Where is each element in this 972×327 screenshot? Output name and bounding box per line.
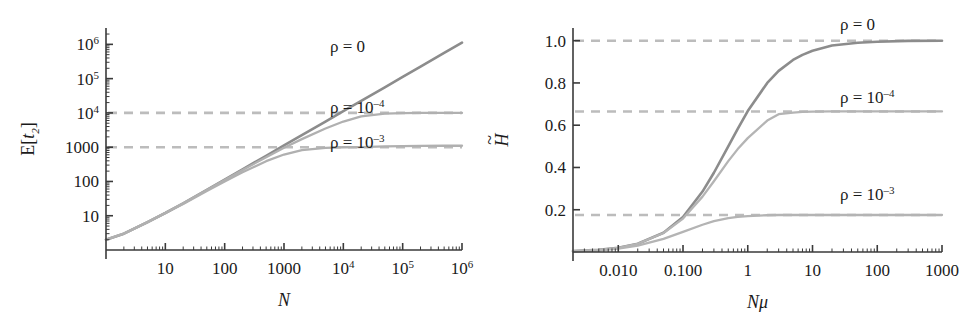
x-axis-title: Nμ [746, 292, 768, 312]
x-tick-label: 0.010 [599, 261, 637, 280]
x-axis-title: N [277, 290, 291, 310]
y-title-close: ] [18, 122, 38, 128]
x-tick-label: 10 [804, 261, 821, 280]
curve-series-0 [573, 41, 942, 251]
curve-series-2 [106, 146, 462, 240]
y-tick-label: 100 [74, 172, 100, 191]
annot-base: ρ = 10 [840, 185, 884, 204]
y-tick-base: 10 [82, 207, 99, 226]
curve-series-0 [106, 43, 462, 240]
x-tick-label: 105 [391, 258, 414, 278]
x-tick-base: 10 [391, 259, 408, 278]
y-tick-base: 1000 [65, 138, 99, 157]
annot-base: ρ = 10 [840, 88, 884, 107]
x-tick-sup: 6 [468, 258, 474, 270]
y-tick-label: 0.4 [545, 158, 567, 177]
y-tick-base: 10 [77, 104, 94, 123]
y-title-base: E[ [18, 139, 38, 156]
x-tick-base: 100 [212, 259, 238, 278]
x-tick-label: 10 [157, 259, 174, 278]
x-tick-label: 1000 [925, 261, 959, 280]
y-axis-title: E[t2] [18, 122, 41, 156]
y-tick-label: 0.8 [545, 74, 566, 93]
y-tick-label: 104 [77, 103, 100, 123]
y-tick-label: 1.0 [545, 32, 566, 51]
y-tick-label: 0.6 [545, 116, 566, 135]
chart-right-svg: 0.0100.10011010010000.20.40.60.81.0Nμ~Hρ… [486, 0, 972, 327]
x-tick-label: 104 [332, 258, 355, 278]
y-tick-sup: 4 [94, 103, 100, 115]
x-tick-label: 0.100 [664, 261, 702, 280]
chart-panel-left: 101001000104105106101001000104105106NE[t… [0, 0, 486, 327]
curve-series-1 [573, 111, 942, 251]
annot-rho-1e-3: ρ = 10–3 [840, 184, 895, 204]
figure-container: 101001000104105106101001000104105106NE[t… [0, 0, 972, 327]
annot-base: ρ = 10 [330, 98, 374, 117]
x-tick-label: 106 [451, 258, 474, 278]
chart-panel-right: 0.0100.10011010010000.20.40.60.81.0Nμ~Hρ… [486, 0, 972, 327]
chart-left-svg: 101001000104105106101001000104105106NE[t… [0, 0, 486, 327]
annot-sup: –4 [883, 87, 896, 99]
y-axis-title: H [492, 133, 512, 148]
x-tick-label: 1 [744, 261, 753, 280]
y-tick-label: 106 [77, 34, 100, 54]
x-tick-label: 100 [212, 259, 238, 278]
y-tick-base: 10 [77, 35, 94, 54]
x-tick-base: 10 [451, 259, 468, 278]
annot-rho-0: ρ = 0 [840, 15, 875, 34]
y-tick-label: 105 [77, 69, 100, 89]
y-tick-base: 10 [77, 70, 94, 89]
annot-base: ρ = 10 [330, 133, 374, 152]
annot-sup: –3 [883, 184, 896, 196]
x-tick-label: 100 [865, 261, 891, 280]
x-tick-base: 10 [332, 259, 349, 278]
x-tick-base: 1000 [267, 259, 301, 278]
annot-base: ρ = 0 [840, 15, 875, 34]
curve-series-1 [106, 113, 462, 240]
y-tick-sup: 5 [94, 69, 100, 81]
x-tick-sup: 5 [408, 258, 414, 270]
y-tick-label: 0.2 [545, 201, 566, 220]
y-tick-sup: 6 [94, 34, 100, 46]
annot-rho-1e-3: ρ = 10–3 [330, 132, 385, 152]
x-tick-sup: 4 [349, 258, 355, 270]
annot-rho-0: ρ = 0 [330, 37, 365, 56]
x-tick-base: 10 [157, 259, 174, 278]
annot-rho-1e-4: ρ = 10–4 [840, 87, 895, 107]
y-title-italic: H [492, 133, 512, 148]
annot-base: ρ = 0 [330, 37, 365, 56]
y-tick-base: 100 [74, 172, 100, 191]
annot-sup: –3 [373, 132, 386, 144]
y-tick-label: 10 [82, 207, 99, 226]
y-tick-label: 1000 [65, 138, 99, 157]
annot-sup: –4 [373, 97, 386, 109]
x-tick-label: 1000 [267, 259, 301, 278]
